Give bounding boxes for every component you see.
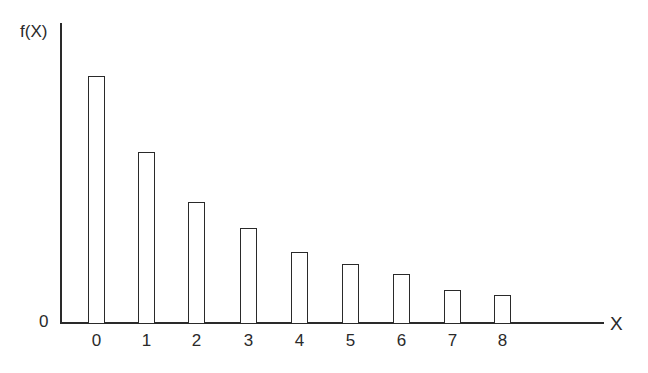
y-axis-label: f(X) bbox=[20, 23, 47, 40]
bar-x-2 bbox=[188, 202, 205, 323]
x-tick-4: 4 bbox=[290, 331, 310, 351]
bar-x-3 bbox=[240, 228, 257, 323]
x-tick-8: 8 bbox=[493, 331, 513, 351]
x-tick-6: 6 bbox=[392, 331, 412, 351]
y-axis-line bbox=[60, 23, 62, 324]
bar-x-7 bbox=[444, 290, 461, 323]
x-tick-7: 7 bbox=[443, 331, 463, 351]
bar-x-4 bbox=[291, 252, 308, 323]
x-axis-label: X bbox=[610, 314, 623, 333]
x-tick-5: 5 bbox=[341, 331, 361, 351]
bar-chart: f(X) 0 X 012345678 bbox=[0, 0, 648, 373]
bar-x-0 bbox=[88, 76, 105, 323]
x-tick-0: 0 bbox=[87, 331, 107, 351]
x-tick-2: 2 bbox=[187, 331, 207, 351]
bar-x-6 bbox=[393, 274, 410, 323]
bar-x-1 bbox=[138, 152, 155, 323]
y-origin-label: 0 bbox=[39, 313, 48, 330]
x-tick-1: 1 bbox=[137, 331, 157, 351]
x-tick-3: 3 bbox=[239, 331, 259, 351]
bar-x-5 bbox=[342, 264, 359, 323]
bar-x-8 bbox=[494, 295, 511, 323]
